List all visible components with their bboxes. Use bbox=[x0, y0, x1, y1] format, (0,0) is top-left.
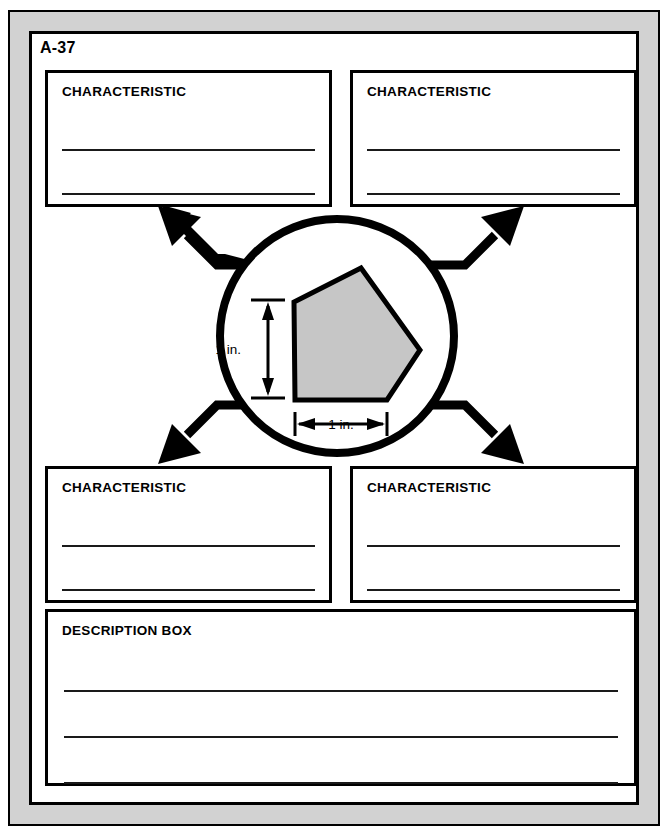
characteristic-box-top-right[interactable]: CHARACTERISTIC bbox=[350, 70, 637, 207]
center-diagram: 1 in. 1 in. bbox=[45, 190, 637, 480]
writing-line[interactable] bbox=[367, 545, 620, 547]
writing-line[interactable] bbox=[64, 782, 618, 784]
characteristic-box-bottom-left[interactable]: CHARACTERISTIC bbox=[45, 466, 332, 603]
connector-up-right-group bbox=[411, 206, 524, 265]
characteristic-box-bottom-right[interactable]: CHARACTERISTIC bbox=[350, 466, 637, 603]
description-box-title: DESCRIPTION BOX bbox=[62, 623, 192, 638]
horizontal-dimension-label: 1 in. bbox=[328, 417, 354, 432]
worksheet-page: A-37 CHARACTERISTIC CHARACTERISTIC CHARA… bbox=[0, 0, 671, 837]
writing-line[interactable] bbox=[62, 545, 315, 547]
writing-line[interactable] bbox=[62, 589, 315, 591]
writing-line[interactable] bbox=[62, 149, 315, 151]
sheet-code-label: A-37 bbox=[40, 39, 75, 57]
characteristic-box-title: CHARACTERISTIC bbox=[367, 480, 491, 495]
writing-line[interactable] bbox=[64, 736, 618, 738]
writing-line[interactable] bbox=[64, 690, 618, 692]
characteristic-box-title: CHARACTERISTIC bbox=[62, 480, 186, 495]
description-box[interactable]: DESCRIPTION BOX bbox=[45, 609, 637, 786]
writing-line[interactable] bbox=[367, 589, 620, 591]
writing-line[interactable] bbox=[367, 149, 620, 151]
characteristic-box-title: CHARACTERISTIC bbox=[62, 84, 186, 99]
characteristic-box-top-left[interactable]: CHARACTERISTIC bbox=[45, 70, 332, 207]
characteristic-box-title: CHARACTERISTIC bbox=[367, 84, 491, 99]
vertical-dimension-label: 1 in. bbox=[215, 342, 241, 357]
